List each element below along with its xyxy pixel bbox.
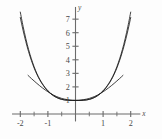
axes-group [12, 7, 140, 121]
y-tick-label: 2 [66, 83, 70, 92]
x-tick-label: 1 [101, 119, 105, 128]
tick-labels-group: -2-1121234567xy [17, 3, 146, 128]
math-plot-figure: -2-1121234567xy [0, 0, 162, 139]
y-tick-label: 4 [66, 56, 70, 65]
x-tick-label: -1 [44, 119, 51, 128]
y-tick-label: 3 [66, 69, 70, 78]
y-axis-label: y [77, 3, 82, 12]
y-tick-label: 5 [66, 42, 70, 51]
plot-canvas: -2-1121234567xy [0, 0, 162, 139]
y-tick-label: 1 [66, 96, 70, 105]
y-tick-label: 6 [66, 29, 70, 38]
x-tick-label: 2 [129, 119, 133, 128]
y-tick-label: 7 [66, 15, 70, 24]
x-tick-label: -2 [17, 119, 24, 128]
x-axis-label: x [141, 109, 146, 118]
